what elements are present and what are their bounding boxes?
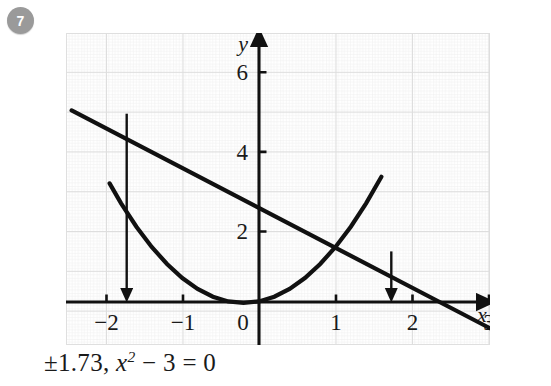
answer-equation-rest: − 3 = 0 [136, 349, 217, 376]
question-number-badge: 7 [7, 7, 34, 34]
answer-line: ±1.73, x2 − 3 = 0 [44, 348, 216, 377]
question-number-label: 7 [17, 14, 25, 28]
answer-roots: ±1.73 [44, 349, 103, 376]
y-tick-label: 6 [237, 60, 249, 85]
x-tick-label: −1 [171, 310, 195, 335]
answer-separator: , [103, 349, 116, 376]
worked-solution-figure: 7 [0, 0, 551, 386]
answer-equation-variable: x [116, 349, 127, 376]
x-tick-label-origin: 0 [237, 310, 249, 335]
y-tick-label: 2 [237, 219, 249, 244]
y-axis-label: y [236, 33, 248, 56]
x-tick-label: 2 [407, 310, 419, 335]
coordinate-graph: −2 −1 0 1 2 3 6 4 2 y x [66, 33, 490, 345]
y-tick-label: 4 [237, 140, 249, 165]
x-tick-label: 1 [330, 310, 342, 335]
answer-equation-exponent: 2 [128, 348, 136, 365]
graph-grid [67, 34, 490, 345]
x-tick-label: −2 [94, 310, 118, 335]
graph-panel: −2 −1 0 1 2 3 6 4 2 y x [66, 33, 490, 345]
